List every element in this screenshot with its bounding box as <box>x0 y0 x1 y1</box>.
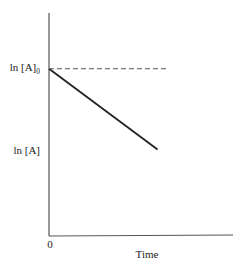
y-tick-label-ln-a: ln [A] <box>13 144 40 156</box>
y-tick-label-subscript: 0 <box>36 67 40 76</box>
series-layer <box>49 69 169 150</box>
decay-line <box>49 69 158 150</box>
chart: ln [A]0 ln [A] 0 Time <box>0 0 242 272</box>
x-axis <box>49 235 233 236</box>
x-axis-label: Time <box>136 248 159 260</box>
y-tick-label-text: ln [A] <box>10 61 37 73</box>
y-tick-label-ln-a0: ln [A]0 <box>10 61 41 76</box>
x-tick-label-zero: 0 <box>47 238 53 250</box>
